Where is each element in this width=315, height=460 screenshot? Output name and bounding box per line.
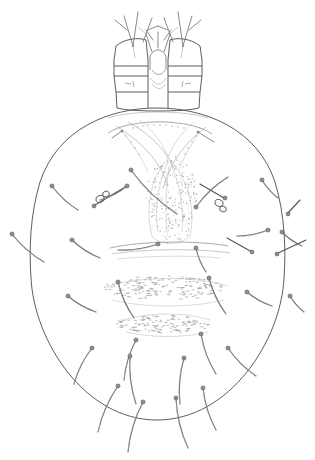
stipple-dot [168, 217, 170, 219]
seta-base [280, 230, 284, 234]
stipple-dot [152, 189, 153, 190]
stipple-dot [163, 212, 164, 213]
stipple-dot [188, 187, 189, 188]
stipple-dot [189, 178, 190, 179]
stipple-dot [162, 196, 163, 197]
stipple-dot [180, 202, 181, 203]
stipple-dot [181, 175, 183, 177]
stipple-dot [178, 203, 179, 204]
stipple-dot [186, 182, 187, 183]
stipple-dot [166, 238, 167, 239]
stipple-dot [178, 224, 180, 226]
stipple-dot [185, 185, 186, 186]
stipple-dot [175, 199, 176, 200]
stipple-dot [159, 231, 160, 232]
stipple-dot [168, 213, 169, 214]
stipple-dot [192, 178, 193, 179]
stipple-dot [191, 216, 192, 217]
stipple-dot [161, 166, 162, 167]
stipple-dot [185, 183, 186, 184]
stipple-dot [149, 201, 150, 202]
seta-base [156, 242, 160, 246]
seta-base [10, 232, 14, 236]
seta-base [129, 168, 133, 172]
stipple-dot [175, 156, 177, 158]
mite-habitus-illustration: Mite ventral habitus line drawing [0, 0, 315, 460]
seta-base [182, 356, 186, 360]
stipple-dot [187, 184, 188, 185]
stipple-dot [181, 192, 182, 193]
stipple-dot [175, 168, 176, 169]
stipple-dot [196, 194, 197, 195]
stipple-dot [151, 225, 152, 226]
stipple-dot [174, 235, 175, 236]
stipple-dot [185, 225, 186, 226]
stipple-dot [168, 192, 169, 193]
stipple-dot [194, 180, 196, 182]
seta-base [50, 184, 54, 188]
stipple-dot [178, 181, 179, 182]
seta-base [260, 178, 264, 182]
stipple-dot [190, 200, 192, 202]
stipple-dot [159, 194, 160, 195]
stipple-dot [153, 206, 155, 208]
stipple-dot [148, 181, 149, 182]
stipple-dot [176, 175, 177, 176]
stipple-dot [162, 218, 163, 219]
stipple-dot [175, 221, 176, 222]
stipple-dot [161, 208, 162, 209]
stipple-dot [165, 197, 166, 198]
stipple-dot [185, 187, 186, 188]
stipple-dot [172, 224, 173, 225]
stipple-dot [163, 241, 164, 242]
stipple-dot [169, 198, 170, 199]
seta-base [226, 346, 230, 350]
stipple-dot [172, 205, 174, 207]
stipple-dot [178, 193, 179, 194]
stipple-dot [190, 195, 191, 196]
stipple-dot [186, 202, 187, 203]
stipple-dot [165, 184, 166, 185]
stipple-dot [172, 221, 173, 222]
seta-base [174, 396, 178, 400]
stipple-dot [188, 204, 189, 205]
stipple-dot [175, 201, 176, 202]
stipple-dot [188, 208, 189, 209]
stipple-dot [177, 164, 178, 165]
stipple-dot [161, 199, 162, 200]
stipple-dot [182, 190, 184, 192]
stipple-dot [193, 194, 194, 195]
stipple-dot [154, 214, 155, 215]
stipple-dot [187, 176, 188, 177]
stipple-dot [167, 227, 168, 228]
stipple-dot [158, 172, 159, 173]
stipple-dot [160, 230, 161, 231]
stipple-dot [180, 179, 181, 180]
stipple-dot [165, 227, 166, 228]
stipple-dot [168, 219, 170, 221]
stipple-dot [165, 236, 166, 237]
stipple-dot [174, 213, 175, 214]
seta-base [245, 290, 249, 294]
stipple-dot [169, 236, 170, 237]
stipple-dot [188, 218, 189, 219]
stipple-dot [155, 178, 156, 179]
stipple-dot [159, 198, 160, 199]
stipple-dot [173, 215, 174, 216]
stipple-dot [164, 181, 165, 182]
stipple-dot [185, 192, 186, 193]
stipple-dot [183, 166, 184, 167]
stipple-dot [162, 228, 163, 229]
stipple-dot [191, 182, 193, 184]
stipple-dot [174, 176, 175, 177]
stipple-dot [179, 161, 180, 162]
stipple-dot [150, 212, 151, 213]
stipple-dot [155, 203, 156, 204]
stipple-dot [181, 185, 182, 186]
stipple-dot [191, 175, 192, 176]
stipple-dot [154, 168, 156, 170]
stipple-dot [178, 227, 179, 228]
stipple-dot [155, 181, 157, 183]
stipple-dot [193, 209, 194, 210]
stipple-dot [193, 175, 194, 176]
